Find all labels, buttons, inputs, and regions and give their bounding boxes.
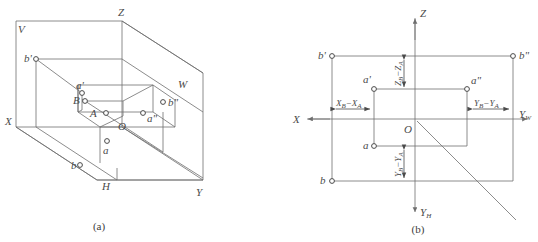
marker-a-prime-b [372, 87, 377, 92]
dim-delta-z-label: ZB−ZA [393, 61, 405, 86]
axis-y-label-a: Y [196, 186, 204, 198]
figure-captions: (a) (b) [93, 220, 425, 236]
marker-b-dblprime-b [511, 54, 516, 59]
point-a-h-label-b: a [363, 139, 369, 151]
plane-h-label: H [101, 180, 111, 192]
marker-A-a [104, 111, 109, 116]
inner-projection-box [78, 85, 175, 155]
point-b-dblprime-label-b: b" [519, 49, 530, 61]
plane-h-outline [16, 127, 203, 180]
point-a-prime-label-a: a' [76, 79, 85, 91]
point-a-prime-label-b: a' [363, 73, 372, 85]
figure-svg: V W H X Y Z b' a' B A O a" b" a b [0, 0, 538, 242]
marker-a-h-a [105, 139, 110, 144]
dim-delta-yh-label: YB−YA [393, 152, 405, 177]
origin-label-b: O [404, 123, 412, 135]
point-a-dblprime-label-a: a" [147, 112, 158, 124]
diagram-a-labels: V W H X Y Z b' a' B A O a" b" a b [4, 6, 204, 198]
caption-b: (b) [412, 223, 425, 236]
diagram-b-group [307, 18, 527, 220]
axis-z-label-a: Z [118, 6, 125, 18]
marker-a-h-b [372, 144, 377, 149]
point-B-label-a: B [73, 94, 80, 106]
axis-yh-label-b: YH [420, 206, 432, 220]
caption-a: (a) [93, 220, 106, 233]
marker-B-a [83, 99, 88, 104]
figure-root: V W H X Y Z b' a' B A O a" b" a b [0, 0, 538, 242]
point-a-dblprime-label-b: a" [471, 74, 482, 86]
point-b-h-label-a: b [71, 159, 77, 171]
marker-b-h-a [78, 163, 83, 168]
axis-z-label-b: Z [420, 7, 427, 19]
bisector-45-line [417, 121, 516, 220]
dim-delta-x-label: XB−XA [335, 98, 362, 110]
axis-yw-label-b: YW [519, 108, 532, 122]
marker-a-dblprime-a [141, 111, 146, 116]
marker-b-h-b [330, 179, 335, 184]
point-b-h-label-b: b [320, 174, 326, 186]
marker-a-prime-a [80, 91, 85, 96]
point-b-prime-label-a: b' [24, 52, 33, 64]
axis-x-label-a: X [4, 115, 13, 127]
diagram-b-labels: X Z YW YH O b' b" a' a" a b XB−XA ZB−ZA … [292, 7, 532, 220]
point-A-label-a: A [89, 107, 97, 119]
marker-b-prime-b [330, 54, 335, 59]
dim-delta-yw-label: YB−YA [474, 98, 499, 110]
axis-x-label-b: X [292, 113, 301, 125]
plane-w-label: W [178, 78, 188, 90]
diagram-b-point-markers [330, 54, 516, 184]
point-a-h-label-a: a [103, 144, 109, 156]
point-b-prime-label-b: b' [318, 49, 327, 61]
point-b-dblprime-label-a: b" [168, 96, 179, 108]
point-O-label-a: O [118, 120, 126, 132]
marker-b-dblprime-a [161, 100, 166, 105]
plane-v-label: V [18, 23, 26, 35]
marker-b-prime-a [34, 57, 39, 62]
marker-a-dblprime-b [465, 87, 470, 92]
